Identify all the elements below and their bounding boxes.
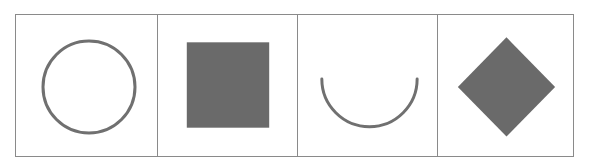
filled-square-icon xyxy=(158,15,297,156)
arc-smile-icon xyxy=(298,15,437,156)
panel-4 xyxy=(437,15,573,156)
circle-outline-icon xyxy=(16,15,157,156)
panel-3 xyxy=(297,15,437,156)
filled-diamond-icon xyxy=(438,15,573,156)
panel-2 xyxy=(157,15,297,156)
panel-1 xyxy=(16,15,157,156)
shape-sequence-strip xyxy=(15,14,574,157)
